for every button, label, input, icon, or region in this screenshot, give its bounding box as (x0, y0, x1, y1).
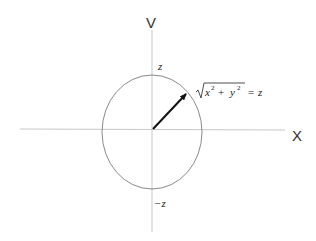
radius-arrow (153, 94, 186, 129)
circle-top-label: z (157, 60, 163, 72)
formula-result: z (257, 86, 263, 98)
radius-formula: x 2 + y 2 = z (196, 83, 263, 98)
formula-y: y (229, 86, 235, 98)
formula-plus: + (218, 86, 224, 98)
v-axis-label: V (146, 14, 156, 31)
circle-bottom-label: −z (154, 197, 166, 209)
diagram-canvas: V X z −z x 2 + y 2 = z (0, 0, 316, 241)
x-axis-label: X (292, 127, 302, 144)
formula-equals: = (248, 86, 254, 98)
formula-x: x (204, 86, 210, 98)
formula-y-exponent: 2 (237, 84, 241, 92)
formula-x-exponent: 2 (211, 84, 215, 92)
